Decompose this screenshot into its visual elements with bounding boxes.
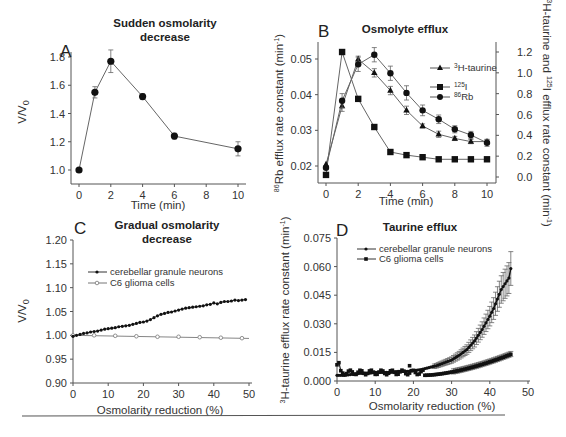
y-tick-label: 1.4: [50, 108, 65, 120]
data-point-circle: [91, 89, 98, 96]
data-point-small: [244, 298, 247, 301]
data-point-small: [502, 285, 505, 288]
legend-label: 3H-taurine: [454, 62, 497, 73]
data-point-circle: [171, 133, 178, 140]
data-point-circle: [452, 126, 458, 132]
data-point-small: [500, 288, 503, 291]
data-point-small: [475, 337, 478, 340]
data-point-small: [128, 324, 131, 327]
chart-title: Sudden osmolarity: [113, 17, 217, 29]
legend: 3H-taurine125I86Rb: [430, 62, 497, 102]
chart-title: Gradual osmolarity: [115, 219, 220, 231]
x-tick-label: 10: [481, 188, 493, 200]
data-point-small: [163, 312, 166, 315]
data-point-triangle: [371, 69, 377, 75]
data-point-small: [212, 301, 215, 304]
data-point-small: [505, 279, 508, 282]
data-point-open: [198, 335, 202, 339]
data-point-small: [195, 305, 198, 308]
data-point-small: [226, 300, 229, 303]
data-point-small: [240, 298, 243, 301]
data-point-square: [371, 124, 377, 130]
data-point-small-square: [408, 364, 412, 368]
x-axis-label: Time (min): [379, 195, 434, 207]
data-point-circle: [403, 90, 409, 96]
data-point-small-square: [509, 353, 513, 357]
data-point-small: [142, 320, 145, 323]
data-point-small: [75, 334, 78, 337]
y-tick-label: 1.15: [46, 258, 67, 270]
legend: cerebellar granule neuronsC6 glioma cell…: [88, 266, 223, 288]
data-point-square: [484, 156, 490, 162]
y-tick-label: 0.000: [303, 375, 331, 387]
data-point-small: [85, 331, 88, 334]
data-point-circle: [75, 166, 82, 173]
data-point-circle: [419, 107, 425, 113]
data-point-small: [223, 300, 226, 303]
data-point-small: [473, 339, 476, 342]
y-tick-label: 1.6: [50, 79, 65, 91]
data-point-small: [156, 314, 159, 317]
y-tick-label-right: 1.0: [517, 67, 532, 79]
data-point-circle: [139, 93, 146, 100]
data-point-circle: [234, 145, 241, 152]
data-point-small: [216, 302, 219, 305]
data-point-small: [188, 306, 191, 309]
x-tick-label: 10: [102, 388, 114, 400]
panel-label: D: [336, 221, 348, 240]
data-point-small: [496, 297, 499, 300]
data-point-small: [191, 306, 194, 309]
y-tick-label: 1.20: [46, 234, 67, 246]
y-tick-label: 0.90: [46, 377, 67, 389]
x-tick-label: 50: [522, 386, 534, 398]
data-point-small: [477, 334, 480, 337]
legend-label: C6 glioma cells: [110, 277, 175, 288]
data-point-triangle: [437, 65, 443, 71]
data-point-open: [113, 334, 117, 338]
y-tick-label-right: 0.2: [517, 150, 532, 162]
y-tick-label: 0.02: [291, 160, 312, 172]
panel-b: 02468100.020.030.040.050.00.20.40.60.81.…: [273, 0, 553, 227]
data-point-small: [96, 329, 99, 332]
data-point-small: [78, 333, 81, 336]
x-axis-label: Osmolarity reduction (%): [97, 404, 224, 416]
data-point-small: [205, 303, 208, 306]
data-point-open: [135, 334, 139, 338]
legend-label: cerebellar granule neurons: [110, 266, 223, 277]
data-point-small: [202, 304, 205, 307]
x-tick-label: 10: [369, 386, 381, 398]
data-point-small: [181, 308, 184, 311]
data-point-small: [100, 328, 103, 331]
legend-label: 86Rb: [454, 91, 473, 102]
data-point-small: [138, 321, 141, 324]
data-point-small: [484, 321, 487, 324]
y-tick-label: 1.10: [46, 282, 67, 294]
y-tick-label: 0.03: [291, 124, 312, 136]
data-point-circle: [436, 116, 442, 122]
x-tick-label: 40: [484, 386, 496, 398]
y-axis-label: V/V0: [16, 100, 31, 124]
y-axis-label: 3H-taurine efflux rate constant (min-1): [279, 216, 291, 403]
x-tick-label: 10: [232, 189, 244, 201]
data-point-small: [93, 330, 96, 333]
data-point-square: [419, 154, 425, 160]
data-point-small: [82, 332, 85, 335]
y-tick-label: 0.04: [291, 89, 312, 101]
data-point-small: [198, 305, 201, 308]
data-point-small: [481, 328, 484, 331]
data-point-square: [403, 152, 409, 158]
y-tick-label: 0.05: [291, 53, 312, 65]
data-point-small: [482, 325, 485, 328]
data-point-small: [152, 316, 155, 319]
y-tick-label-right: 0.6: [517, 109, 532, 121]
x-tick-label: 20: [137, 388, 149, 400]
data-point-circle: [437, 94, 443, 100]
y-tick-label: 0.015: [303, 346, 331, 358]
data-point-circle: [339, 98, 345, 104]
data-point-square: [468, 156, 474, 162]
data-point-small-square: [364, 257, 368, 261]
data-point-square: [355, 96, 361, 102]
data-point-small: [230, 299, 233, 302]
data-point-open: [156, 335, 160, 339]
panel-d: 010203040500.0000.0150.0300.0450.0600.07…: [279, 216, 534, 412]
